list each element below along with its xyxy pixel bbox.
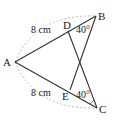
point-label-e: E — [62, 90, 69, 102]
length-label-ae: 8 cm — [31, 87, 51, 98]
segment-ab — [15, 16, 96, 62]
angle-label-c: 40° — [76, 89, 90, 100]
angle-label-b: 40° — [76, 24, 90, 35]
length-label-ad: 8 cm — [31, 24, 51, 35]
geometry-diagram: 8 cm D B 40° A 8 cm E 40° C — [0, 0, 116, 122]
point-label-c: C — [99, 103, 106, 115]
angle-arc-c — [90, 100, 94, 104]
point-label-a: A — [3, 56, 11, 68]
point-label-d: D — [63, 19, 71, 31]
point-label-b: B — [98, 10, 105, 22]
segment-ac — [15, 62, 97, 108]
